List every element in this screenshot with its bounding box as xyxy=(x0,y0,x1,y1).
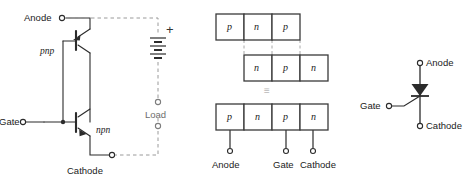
mid-block-label-0: n xyxy=(254,63,259,73)
npn-collector-lead xyxy=(78,109,90,117)
bot-block-label-2: p xyxy=(283,112,288,122)
layer-cathode-terminal-circle xyxy=(311,149,316,154)
scr-label-gate: Gate xyxy=(360,101,381,111)
scr-anode-triangle xyxy=(412,84,429,96)
equivalence-symbol: ≡ xyxy=(264,86,270,96)
scr-gate-terminal-circle xyxy=(386,103,391,108)
gate-junction-dot xyxy=(61,120,65,124)
pnp-collector-lead xyxy=(78,45,90,53)
layer-terminal-leads xyxy=(230,130,313,148)
label-npn: npn xyxy=(96,126,110,136)
layer-anode-terminal-circle xyxy=(228,149,233,154)
cathode-terminal-circle xyxy=(109,152,114,157)
layer-alignment-guides xyxy=(244,40,300,55)
label-pnp: pnp xyxy=(40,47,54,57)
scr-gate-lead xyxy=(392,96,420,106)
load-to-cathode-wire xyxy=(115,118,158,155)
anode-lead xyxy=(66,18,90,29)
bot-block-label-1: n xyxy=(255,112,260,122)
load-terminal-circle-bottom xyxy=(155,123,160,128)
anode-terminal-circle xyxy=(59,15,64,20)
bot-block-label-0: p xyxy=(227,112,232,122)
load-terminal-circle-top xyxy=(155,99,160,104)
layer-label-cathode: Cathode xyxy=(300,160,336,170)
label-load: Load xyxy=(145,110,166,120)
label-battery-plus: + xyxy=(166,23,174,36)
label-cathode: Cathode xyxy=(67,166,103,176)
top-block-label-1: n xyxy=(254,22,259,32)
layer-label-anode: Anode xyxy=(212,160,239,170)
bot-block-label-3: n xyxy=(311,112,316,122)
label-gate: Gate xyxy=(0,117,20,127)
scr-cathode-terminal-circle xyxy=(417,123,422,128)
layer-label-gate: Gate xyxy=(273,160,294,170)
label-anode: Anode xyxy=(24,13,51,23)
scr-label-anode: Anode xyxy=(426,58,453,68)
mid-block-label-1: p xyxy=(283,63,288,73)
scr-anode-terminal-circle xyxy=(417,60,422,65)
npn-emitter-to-cathode xyxy=(90,136,109,155)
gate-terminal-circle xyxy=(20,119,25,124)
anode-to-battery-wire xyxy=(65,18,158,34)
scr-label-cathode: Cathode xyxy=(426,121,462,131)
diagram-vectors xyxy=(0,0,465,185)
battery-symbol xyxy=(150,38,166,58)
top-block-label-2: p xyxy=(283,22,288,32)
layer-gate-terminal-circle xyxy=(284,149,289,154)
top-block-label-0: p xyxy=(227,22,232,32)
figure-canvas: Anode Gate Cathode pnp npn + Load p n p … xyxy=(0,0,465,185)
mid-block-label-2: n xyxy=(311,63,316,73)
scr-symbol-lines xyxy=(392,66,429,123)
